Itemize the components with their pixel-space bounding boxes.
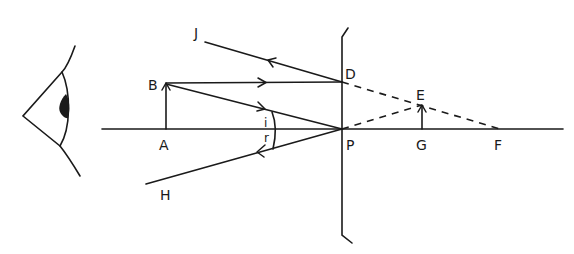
label-H: H (160, 187, 171, 203)
label-G: G (416, 137, 427, 153)
angle-arc (272, 112, 275, 149)
label-J: J (193, 25, 198, 41)
ray-BP-arrow (257, 102, 265, 111)
ray-diagram: J B A D E P G F H i r (0, 0, 574, 254)
convex-mirror (342, 28, 352, 243)
label-D: D (345, 66, 356, 82)
ray-BD (166, 82, 342, 83)
eye-icon (23, 46, 80, 176)
label-E: E (416, 87, 425, 103)
label-angle-r: r (264, 131, 269, 145)
label-P: P (346, 137, 354, 153)
label-B: B (148, 77, 158, 93)
ray-BP (166, 84, 342, 129)
ray-PH (146, 129, 342, 184)
label-F: F (494, 137, 502, 153)
eye-outline (23, 46, 80, 176)
ray-DJ (205, 42, 342, 82)
label-A: A (159, 137, 169, 153)
virtual-ray-PE (342, 105, 422, 129)
label-angle-i: i (264, 116, 267, 130)
